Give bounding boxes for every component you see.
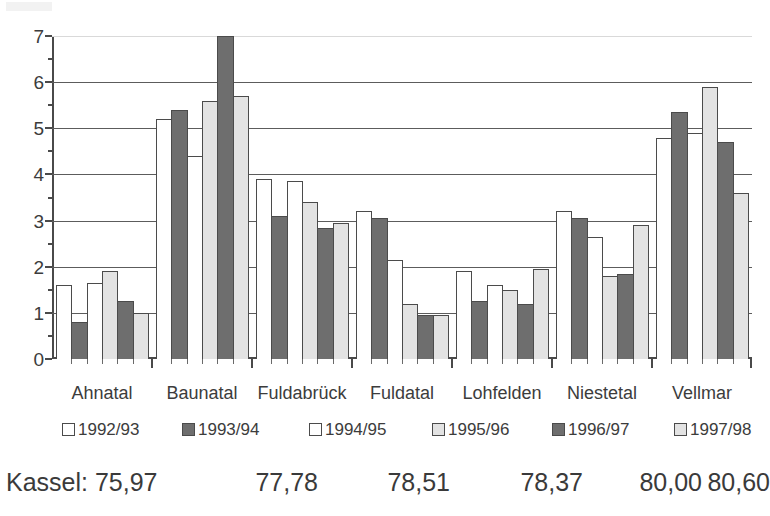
bar [56, 285, 72, 359]
x-axis-label-baunatal: Baunatal [166, 382, 237, 404]
x-axis-minor-tick [602, 359, 603, 364]
bar [671, 112, 687, 359]
bar [571, 218, 587, 359]
legend-label: 1994/95 [325, 420, 386, 439]
bar [371, 218, 387, 359]
bar [117, 301, 133, 359]
bar [387, 260, 403, 359]
bar [617, 274, 633, 359]
x-axis-group-separator [451, 359, 453, 368]
y-tick-label-7: 7 [6, 27, 44, 46]
bar [333, 223, 349, 359]
legend-item[interactable]: 1992/93 [62, 420, 139, 439]
x-axis-minor-tick [687, 359, 688, 364]
x-axis-label-fuldatal: Fuldatal [370, 382, 434, 404]
bar [187, 156, 203, 359]
x-axis-minor-tick [702, 359, 703, 364]
x-axis-minor-tick [71, 359, 72, 364]
x-axis-minor-tick [202, 359, 203, 364]
y-tick-label-5: 5 [6, 119, 44, 138]
kassel-value: 77,78 [255, 466, 318, 498]
bar [471, 301, 487, 359]
x-axis-minor-tick [317, 359, 318, 364]
bar [317, 228, 333, 360]
x-axis-minor-tick [733, 359, 734, 364]
legend-label: 1996/97 [568, 420, 629, 439]
y-tick-label-2: 2 [6, 257, 44, 276]
chart-page: 01234567 AhnatalBaunatalFuldabrückFuldat… [0, 0, 770, 516]
bar [502, 290, 518, 359]
legend-label: 1997/98 [690, 420, 751, 439]
legend-label: 1993/94 [198, 420, 259, 439]
x-axis-minor-tick [487, 359, 488, 364]
x-axis-minor-tick [133, 359, 134, 364]
y-tick-mark-7 [45, 35, 52, 37]
x-axis-label-fuldabr-ck: Fuldabrück [257, 382, 346, 404]
bar [233, 96, 249, 359]
bar [256, 179, 272, 359]
bar [102, 271, 118, 359]
legend-item[interactable]: 1997/98 [674, 420, 751, 439]
legend-label: 1992/93 [78, 420, 139, 439]
bar [656, 138, 672, 359]
kassel-reference-row: Kassel: 75,9777,7878,5178,3780,0080,60 [0, 466, 770, 506]
legend-item[interactable]: 1993/94 [182, 420, 259, 439]
x-axis-minor-tick [617, 359, 618, 364]
x-axis-label-lohfelden: Lohfelden [462, 382, 541, 404]
bar [702, 87, 718, 359]
legend-item[interactable]: 1994/95 [309, 420, 386, 439]
y-tick-label-0: 0 [6, 350, 44, 369]
bar [156, 119, 172, 359]
bar [556, 211, 572, 359]
x-axis-minor-tick [271, 359, 272, 364]
bar [733, 193, 749, 359]
x-axis-group-separator [551, 359, 553, 368]
y-tick-mark-2 [45, 266, 52, 268]
legend-item[interactable]: 1995/96 [432, 420, 509, 439]
bar [217, 36, 233, 359]
bar [633, 225, 649, 359]
bar [356, 211, 372, 359]
x-axis-minor-tick [302, 359, 303, 364]
bar [487, 285, 503, 359]
x-axis-minor-tick [87, 359, 88, 364]
x-axis-label-niestetal: Niestetal [567, 382, 637, 404]
kassel-value: 78,51 [387, 466, 450, 498]
legend-swatch-icon [674, 423, 687, 436]
bar [271, 216, 287, 359]
x-axis-label-ahnatal: Ahnatal [71, 382, 132, 404]
x-axis-minor-tick [533, 359, 534, 364]
y-tick-label-1: 1 [6, 303, 44, 322]
kassel-value: 78,37 [520, 466, 583, 498]
bar [71, 322, 87, 359]
bar [433, 315, 449, 359]
bar [287, 181, 303, 359]
bar [417, 315, 433, 359]
bar [302, 202, 318, 359]
y-tick-mark-3 [45, 220, 52, 222]
x-axis-minor-tick [671, 359, 672, 364]
bar [87, 283, 103, 359]
y-tick-mark-4 [45, 173, 52, 175]
x-axis-minor-tick [471, 359, 472, 364]
bar [171, 110, 187, 359]
y-tick-mark-6 [45, 81, 52, 83]
legend-swatch-icon [182, 423, 195, 436]
y-tick-mark-5 [45, 127, 52, 129]
legend-swatch-icon [432, 423, 445, 436]
x-axis-minor-tick [287, 359, 288, 364]
y-tick-label-3: 3 [6, 211, 44, 230]
y-tick-label-6: 6 [6, 73, 44, 92]
x-axis-minor-tick [102, 359, 103, 364]
legend-label: 1995/96 [448, 420, 509, 439]
bars-layer [52, 36, 752, 359]
scan-artifact [6, 2, 52, 11]
x-axis-minor-tick [117, 359, 118, 364]
legend-item[interactable]: 1996/97 [552, 420, 629, 439]
x-axis-group-separator [251, 359, 253, 368]
chart-plot-area [52, 36, 752, 359]
kassel-label: Kassel: 75,97 [6, 466, 158, 498]
x-axis-minor-tick [171, 359, 172, 364]
x-axis-minor-tick [217, 359, 218, 364]
x-axis-minor-tick [333, 359, 334, 364]
